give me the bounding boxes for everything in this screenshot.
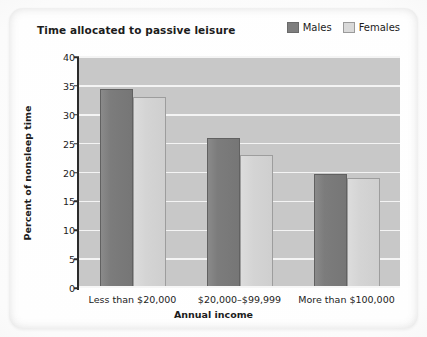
y-tick-mark <box>74 143 79 145</box>
legend-swatch-males-icon <box>287 22 299 33</box>
bar-group <box>100 57 166 288</box>
legend-swatch-females-icon <box>343 22 355 33</box>
bar-females-2[interactable] <box>347 178 380 288</box>
legend-label-males: Males <box>303 22 332 33</box>
y-axis-title: Percent of nonsleep time <box>22 105 33 240</box>
bar-males-1[interactable] <box>207 138 240 288</box>
y-tick-mark <box>74 85 79 87</box>
y-tick-mark <box>74 172 79 174</box>
x-axis-title: Annual income <box>174 309 253 320</box>
legend-label-females: Females <box>359 22 400 33</box>
bar-group <box>207 57 273 288</box>
y-tick-mark <box>74 201 79 203</box>
legend-item-males[interactable]: Males <box>287 22 332 33</box>
plot-area: 0510152025303540 <box>79 57 400 288</box>
y-tick-mark <box>74 114 79 116</box>
legend-item-females[interactable]: Females <box>343 22 400 33</box>
bar-group <box>314 57 380 288</box>
axis-baseline <box>79 286 400 288</box>
x-tick-label: More than $100,000 <box>298 294 395 305</box>
x-tick-label: $20,000–$99,999 <box>198 294 281 305</box>
chart-legend: Males Females <box>287 22 400 33</box>
y-tick-mark <box>74 56 79 58</box>
chart-page: Time allocated to passive leisure Males … <box>0 0 427 337</box>
bar-females-0[interactable] <box>133 97 166 288</box>
x-tick-label: Less than $20,000 <box>89 294 177 305</box>
y-tick-mark <box>74 230 79 232</box>
bar-females-1[interactable] <box>240 155 273 288</box>
bar-males-2[interactable] <box>314 174 347 288</box>
bar-males-0[interactable] <box>100 89 133 288</box>
y-axis-title-wrap: Percent of nonsleep time <box>20 57 34 288</box>
chart-title: Time allocated to passive leisure <box>37 24 235 36</box>
y-tick-mark <box>74 258 79 260</box>
